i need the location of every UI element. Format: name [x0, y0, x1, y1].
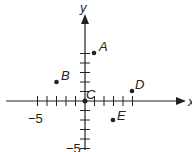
point-d	[130, 89, 135, 94]
x-axis-label: x	[187, 94, 192, 109]
x-tick-label-neg5: −5	[28, 111, 43, 126]
y-tick-label-neg5: −5	[66, 141, 81, 152]
point-a-label: A	[98, 39, 108, 54]
point-a	[92, 51, 97, 56]
point-d-label: D	[135, 77, 144, 92]
point-b-label: B	[61, 68, 70, 83]
point-c-label: C	[86, 87, 96, 102]
point-e-label: E	[117, 108, 126, 123]
y-axis-arrow-icon	[81, 14, 89, 24]
point-b	[54, 80, 59, 85]
y-axis-label: y	[79, 0, 88, 15]
coordinate-plane: y x −5 −5 A B C D E	[0, 0, 192, 152]
point-e	[111, 118, 116, 123]
x-axis-arrow-icon	[176, 97, 186, 105]
